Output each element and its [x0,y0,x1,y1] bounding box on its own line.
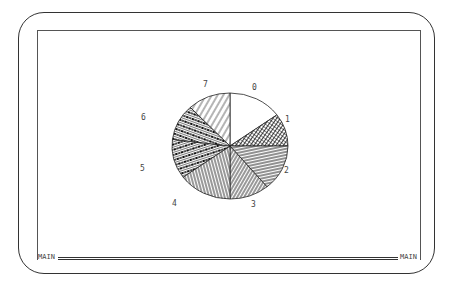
slice-label-3: 3 [251,200,256,209]
slice-label-5: 5 [140,164,145,173]
status-divider [58,257,398,260]
slice-label-0: 0 [252,83,257,92]
status-right-label: MAIN [400,253,417,262]
slice-label-1: 1 [285,115,290,124]
slice-label-6: 6 [141,113,146,122]
slice-label-4: 4 [172,199,177,208]
status-left-label: MAIN [38,253,55,262]
status-bar: MAIN MAIN [36,253,422,263]
slice-label-2: 2 [284,166,289,175]
slice-label-7: 7 [203,80,208,89]
pie-chart: 0 1 2 3 4 5 6 7 [0,0,454,290]
pie-slices [172,93,288,199]
